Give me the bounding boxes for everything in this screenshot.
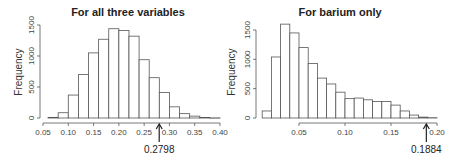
annotation-value: 0.1884	[411, 144, 442, 155]
histogram-bar	[345, 99, 354, 118]
histogram-bar	[58, 113, 68, 118]
histogram-bar	[262, 111, 271, 118]
x-tick-label: 0.25	[136, 128, 152, 137]
x-tick-label: 0.20	[429, 128, 445, 137]
y-tick-label: 1500	[243, 21, 252, 39]
histogram-bar	[354, 98, 363, 118]
y-tick-label: 1000	[243, 50, 252, 68]
histogram-bar	[109, 29, 119, 118]
histogram-bar	[180, 114, 190, 118]
histogram-bar	[382, 102, 391, 118]
histogram-bar	[149, 78, 159, 118]
histogram-bar	[281, 24, 290, 118]
y-tick-label: 0	[27, 115, 36, 120]
histogram-bar	[409, 115, 418, 118]
x-tick-label: 0.15	[86, 128, 102, 137]
histogram-bar	[317, 78, 326, 118]
histogram-bar	[190, 116, 200, 118]
y-tick-label: 1500	[27, 16, 36, 34]
histogram-bar	[169, 107, 179, 118]
histogram-bar	[336, 92, 345, 118]
x-tick-label: 0.20	[111, 128, 127, 137]
histogram-bar	[159, 93, 169, 118]
y-axis-label: Frequency	[226, 48, 237, 95]
annotation-value: 0.2798	[144, 144, 175, 155]
histogram-bar	[139, 60, 149, 118]
y-tick-label: 500	[243, 81, 252, 95]
histogram-bar	[308, 63, 317, 118]
histogram-bar	[363, 100, 372, 118]
histogram-bar	[89, 53, 99, 118]
histogram-bar	[48, 117, 58, 118]
histogram-panel-1: For all three variables050010001500Frequ…	[13, 6, 228, 155]
chart-title: For barium only	[298, 6, 382, 18]
histogram-bar	[129, 36, 139, 118]
histogram-bar	[119, 31, 129, 118]
chart-title: For all three variables	[71, 6, 185, 18]
x-tick-label: 0.05	[35, 128, 51, 137]
x-tick-label: 0.10	[337, 128, 353, 137]
x-tick-label: 0.40	[212, 128, 228, 137]
histogram-bar	[271, 57, 280, 118]
histogram-panel-2: For barium only050010001500Frequency0.05…	[226, 6, 445, 155]
histogram-bar	[419, 117, 428, 118]
x-tick-label: 0.35	[187, 128, 203, 137]
histogram-bar	[373, 102, 382, 118]
histogram-bar	[327, 84, 336, 118]
histogram-bar	[299, 48, 308, 118]
x-tick-label: 0.30	[162, 128, 178, 137]
histogram-bar	[78, 75, 88, 118]
histogram-bar	[400, 111, 409, 118]
histogram-bar	[99, 39, 109, 118]
y-tick-label: 500	[27, 80, 36, 94]
x-tick-label: 0.10	[60, 128, 76, 137]
histogram-figure: For all three variables050010001500Frequ…	[0, 0, 449, 163]
y-tick-label: 1000	[27, 47, 36, 65]
x-tick-label: 0.15	[383, 128, 399, 137]
y-tick-label: 0	[243, 115, 252, 120]
y-axis-label: Frequency	[13, 48, 24, 95]
x-tick-label: 0.05	[291, 128, 307, 137]
histogram-bar	[290, 33, 299, 118]
histogram-bar	[391, 105, 400, 118]
histogram-bar	[68, 95, 78, 118]
